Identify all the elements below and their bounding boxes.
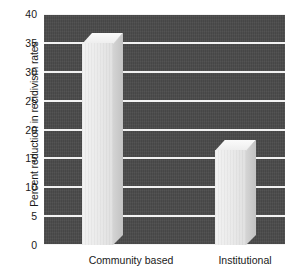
gridline [44,14,285,15]
bar-chart: Percent reduction in recidivism rates 05… [0,0,305,274]
bar-side-face [246,140,256,245]
bar-front-face [82,43,113,245]
gridline [44,129,285,131]
y-axis-tick-labels: 0510152025303540 [0,0,44,274]
gridline [44,71,285,73]
bar [82,33,123,245]
gridline [44,42,285,44]
x-axis-tick-label: Community based [89,254,174,266]
bar-side-face [113,33,123,245]
y-axis-tick-label: 35 [25,38,37,48]
y-axis-tick-label: 15 [25,153,37,163]
y-axis-tick-label: 25 [25,96,37,106]
plot-area [44,14,285,245]
y-axis-tick-label: 5 [31,211,37,221]
x-axis-tick-labels: Community basedInstitutional [0,250,305,274]
x-axis-tick-label: Institutional [218,254,271,266]
gridline [44,100,285,102]
y-axis-tick-label: 30 [25,67,37,77]
y-axis-tick-label: 0 [31,240,37,250]
y-axis-tick-label: 10 [25,182,37,192]
y-axis-tick-label: 20 [25,125,37,135]
y-axis-tick-label: 40 [25,9,37,19]
bar-front-face [215,150,246,245]
bar [215,140,256,245]
